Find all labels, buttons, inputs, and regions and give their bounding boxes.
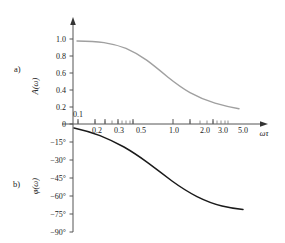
panel-b-label: b) [13,179,20,189]
panel-a-ytick-5: 0.2 [56,103,66,112]
panel-a-label: a) [14,64,21,74]
panel-b-ytick-30: −30° [50,156,66,165]
panel-b-axis-title: φ(ω) [30,178,40,195]
xtick-2.0: 2.0 [200,126,210,135]
panel-a-ytick-3: 0.6 [56,69,66,78]
x-axis-minor-ticks [78,121,228,125]
xtick-0.5: 0.5 [136,126,146,135]
panel-b-y-ticks [70,142,74,232]
x-axis-title: ωτ [259,128,269,138]
phase-curve [74,128,243,209]
panel-b-ytick-90: −90° [50,228,66,237]
xtick-0.1: 0.1 [73,110,83,119]
panel-a-axis-title: A(ω) [30,77,40,95]
panel-b-ytick-45: −45° [50,174,66,183]
panel-b-ytick-60: −60° [50,192,66,201]
panel-a-ytick-2: 0.8 [56,52,66,61]
xtick-0.3: 0.3 [114,126,124,135]
x-axis-major-ticks [78,119,213,124]
amplitude-curve [77,41,239,109]
panel-b: −15° −30° −45° −60° −75° −90° b) φ(ω) [13,124,243,237]
panel-a-ytick-4: 0.4 [56,86,66,95]
bode-plot-figure: 1.0 0.8 0.6 0.4 0.2 0 a) A(ω) [0,0,285,243]
panel-a-y-axis [70,17,76,124]
xtick-3.0: 3.0 [218,126,228,135]
xtick-1.0: 1.0 [169,126,179,135]
panel-a-ytick-1: 1.0 [56,35,66,44]
panel-a: 1.0 0.8 0.6 0.4 0.2 0 a) A(ω) [14,17,239,129]
panel-b-ytick-75: −75° [50,210,66,219]
xtick-5.0: 5.0 [238,126,248,135]
panel-b-ytick-15: −15° [50,138,66,147]
